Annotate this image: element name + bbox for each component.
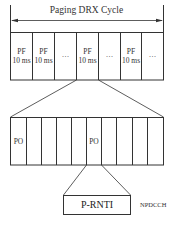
- pf-cell-expanded: PF 10 ms: [77, 32, 98, 80]
- paging-drx-cycle-label: Paging DRX Cycle: [10, 5, 163, 15]
- ellipsis-label: ···: [62, 52, 70, 61]
- ellipsis-cell: ···: [142, 32, 163, 80]
- ellipsis-label: ···: [149, 52, 157, 61]
- po-cell: PO: [11, 117, 26, 165]
- pf-duration: 10 ms: [122, 56, 140, 65]
- pf-label: PF: [127, 47, 135, 56]
- pf-label: PF: [17, 47, 25, 56]
- ellipsis-cell: ···: [99, 32, 120, 80]
- pf-cell: PF 10 ms: [121, 32, 141, 80]
- po-cell-expanded: PO: [87, 117, 101, 165]
- pf-cell: PF 10 ms: [11, 32, 32, 80]
- p-rnti-box: P-RNTI: [63, 195, 131, 215]
- npdcch-label: NPDCCH: [140, 201, 166, 208]
- pf-cell: PF 10 ms: [33, 32, 54, 80]
- pf-duration: 10 ms: [12, 56, 30, 65]
- pf-label: PF: [83, 47, 91, 56]
- pf-label: PF: [39, 47, 47, 56]
- ellipsis-label: ···: [106, 52, 114, 61]
- ellipsis-cell: ···: [55, 32, 76, 80]
- pf-duration: 10 ms: [78, 56, 96, 65]
- pf-duration: 10 ms: [34, 56, 52, 65]
